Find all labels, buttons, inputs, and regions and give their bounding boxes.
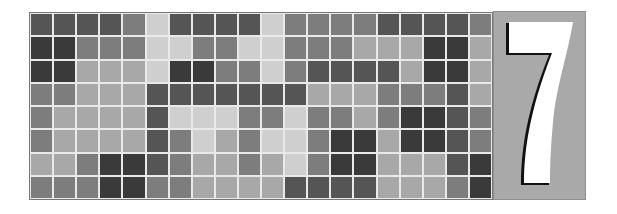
mosaic-tile [447, 61, 468, 82]
mosaic-tile [170, 107, 191, 128]
mosaic-tile [424, 177, 445, 198]
numeral-fill [509, 22, 573, 183]
mosaic-tile [100, 37, 121, 58]
mosaic-tile [424, 14, 445, 35]
mosaic-tile [54, 154, 75, 175]
mosaic-tile [354, 61, 375, 82]
mosaic-tile [308, 177, 329, 198]
mosaic-tile [308, 107, 329, 128]
mosaic-tile [470, 84, 491, 105]
mosaic-tile [424, 107, 445, 128]
mosaic-tile [331, 154, 352, 175]
mosaic-tile [378, 14, 399, 35]
mosaic-tile [308, 14, 329, 35]
mosaic-tile [100, 61, 121, 82]
mosaic-tile [31, 14, 52, 35]
mosaic-grid [29, 12, 493, 200]
mosaic-tile [262, 61, 283, 82]
mosaic-tile [123, 107, 144, 128]
mosaic-tile [54, 130, 75, 151]
mosaic-tile [331, 130, 352, 151]
mosaic-tile [77, 14, 98, 35]
mosaic-tile [447, 154, 468, 175]
mosaic-tile [424, 61, 445, 82]
mosaic-tile [239, 61, 260, 82]
mosaic-tile [447, 107, 468, 128]
mosaic-tile [54, 14, 75, 35]
mosaic-tile [147, 107, 168, 128]
numeral-seven-icon: 7 [494, 12, 587, 201]
mosaic-tile [447, 177, 468, 198]
mosaic-tile [447, 130, 468, 151]
mosaic-tile [285, 14, 306, 35]
mosaic-tile [239, 84, 260, 105]
mosaic-tile [170, 130, 191, 151]
mosaic-tile [193, 84, 214, 105]
mosaic-tile [54, 61, 75, 82]
mosaic-tile [378, 107, 399, 128]
mosaic-tile [401, 107, 422, 128]
mosaic-tile [470, 130, 491, 151]
mosaic-tile [123, 37, 144, 58]
mosaic-tile [447, 84, 468, 105]
mosaic-tile [193, 107, 214, 128]
mosaic-tile [262, 37, 283, 58]
mosaic-tile [193, 154, 214, 175]
mosaic-tile [378, 37, 399, 58]
mosaic-tile [147, 177, 168, 198]
mosaic-tile [123, 154, 144, 175]
mosaic-tile [31, 107, 52, 128]
mosaic-tile [285, 107, 306, 128]
mosaic-tile [354, 177, 375, 198]
mosaic-tile [239, 154, 260, 175]
mosaic-tile [193, 177, 214, 198]
mosaic-tile [123, 130, 144, 151]
mosaic-tile [470, 154, 491, 175]
mosaic-tile [31, 130, 52, 151]
mosaic-tile [331, 14, 352, 35]
mosaic-tile [100, 177, 121, 198]
mosaic-tile [31, 84, 52, 105]
mosaic-tile [262, 84, 283, 105]
mosaic-tile [239, 14, 260, 35]
mosaic-tile [401, 177, 422, 198]
mosaic-tile [285, 154, 306, 175]
mosaic-tile [147, 84, 168, 105]
mosaic-tile [54, 107, 75, 128]
mosaic-tile [77, 61, 98, 82]
mosaic-tile [100, 84, 121, 105]
mosaic-tile [77, 154, 98, 175]
mosaic-tile [401, 84, 422, 105]
mosaic-tile [354, 14, 375, 35]
mosaic-tile [123, 61, 144, 82]
mosaic-tile [147, 37, 168, 58]
mosaic-tile [401, 14, 422, 35]
mosaic-tile [378, 177, 399, 198]
mosaic-tile [77, 84, 98, 105]
mosaic-tile [77, 37, 98, 58]
mosaic-tile [193, 61, 214, 82]
mosaic-tile [216, 107, 237, 128]
mosaic-tile [239, 177, 260, 198]
mosaic-tile [239, 130, 260, 151]
mosaic-tile [308, 37, 329, 58]
mosaic-tile [216, 14, 237, 35]
mosaic-tile [378, 84, 399, 105]
mosaic-tile [216, 177, 237, 198]
mosaic-tile [239, 37, 260, 58]
mosaic-tile [31, 37, 52, 58]
mosaic-tile [31, 177, 52, 198]
mosaic-tile [401, 130, 422, 151]
mosaic-tile [285, 177, 306, 198]
mosaic-tile [170, 84, 191, 105]
mosaic-tile [262, 177, 283, 198]
mosaic-tile [216, 37, 237, 58]
mosaic-tile [170, 37, 191, 58]
mosaic-tile [470, 107, 491, 128]
mosaic-tile [100, 154, 121, 175]
mosaic-tile [100, 107, 121, 128]
mosaic-tile [331, 84, 352, 105]
mosaic-tile [262, 154, 283, 175]
mosaic-tile [170, 154, 191, 175]
mosaic-tile [262, 107, 283, 128]
